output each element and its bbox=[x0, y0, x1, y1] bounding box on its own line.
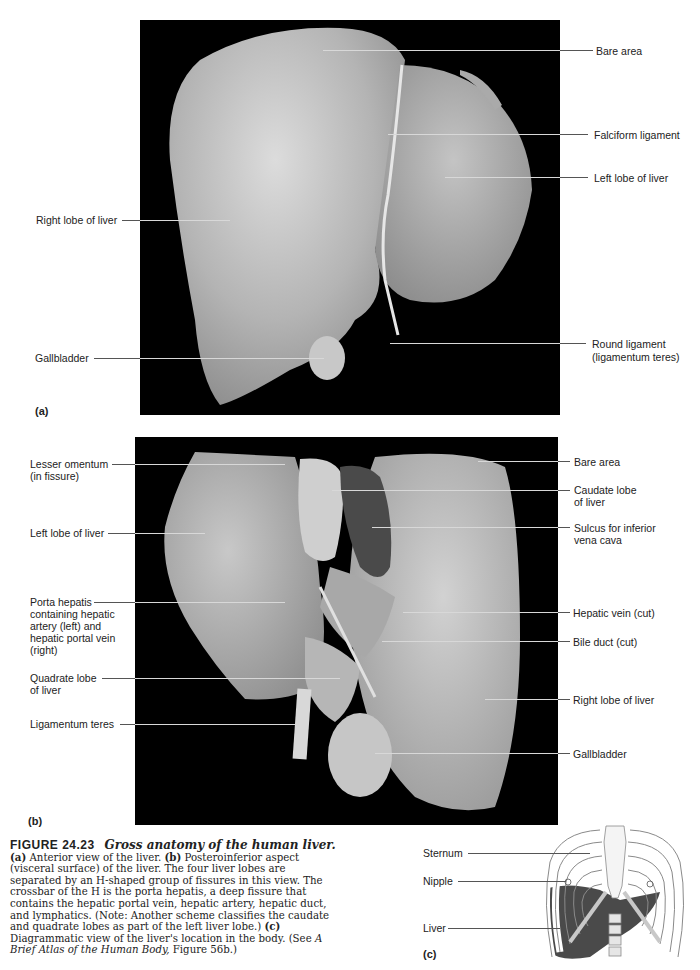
leader-line bbox=[135, 464, 285, 465]
leader-line bbox=[94, 358, 140, 359]
label-quadrate-lobe-1: Quadrate lobe bbox=[30, 672, 97, 684]
caption-text-c: Diagrammatic view of the liver's locatio… bbox=[10, 933, 315, 944]
label-left-lobe-a: Left lobe of liver bbox=[594, 172, 668, 184]
atlas-reference: Figure 56b.) bbox=[170, 944, 237, 955]
photo-anterior-liver bbox=[140, 20, 560, 415]
rib-cage-diagram bbox=[530, 822, 700, 970]
leader-line bbox=[558, 641, 570, 642]
leader-line bbox=[102, 678, 135, 679]
caption-tag-b: (b) bbox=[165, 851, 182, 863]
leader-line bbox=[122, 220, 140, 221]
label-nipple: Nipple bbox=[423, 875, 453, 887]
label-porta-hepatis-3: artery (left) and bbox=[30, 620, 101, 632]
panel-tag-b: (b) bbox=[28, 815, 42, 827]
label-gallbladder-a: Gallbladder bbox=[35, 352, 89, 364]
leader-line bbox=[558, 753, 570, 754]
label-porta-hepatis-1: Porta hepatis bbox=[30, 596, 92, 608]
figure-caption: FIGURE 24.23 Gross anatomy of the human … bbox=[10, 840, 340, 956]
label-caudate-lobe-1: Caudate lobe bbox=[574, 484, 636, 496]
label-lesser-omentum-2: (in fissure) bbox=[30, 470, 79, 482]
label-bare-area-b: Bare area bbox=[574, 456, 620, 468]
leader-line bbox=[560, 134, 588, 135]
label-lesser-omentum-1: Lesser omentum bbox=[30, 458, 108, 470]
leader-line bbox=[558, 527, 570, 528]
leader-line bbox=[332, 490, 558, 491]
panel-tag-a: (a) bbox=[35, 405, 48, 417]
label-sulcus-ivc-1: Sulcus for inferior bbox=[574, 522, 656, 534]
label-quadrate-lobe-2: of liver bbox=[30, 684, 61, 696]
label-liver-c: Liver bbox=[423, 922, 446, 934]
caption-text-b: Posteroinferior aspect (visceral surface… bbox=[10, 852, 329, 933]
leader-line bbox=[140, 358, 324, 359]
leader-line bbox=[135, 602, 285, 603]
leader-line bbox=[382, 641, 558, 642]
label-sternum: Sternum bbox=[423, 847, 463, 859]
leader-line bbox=[560, 50, 593, 51]
label-right-lobe-b: Right lobe of liver bbox=[573, 694, 654, 706]
label-porta-hepatis-4: hepatic portal vein bbox=[30, 632, 115, 644]
label-round-ligament-2: (ligamentum teres) bbox=[592, 351, 680, 363]
leader-line bbox=[390, 343, 560, 344]
leader-line bbox=[94, 602, 135, 603]
leader-line bbox=[558, 461, 570, 462]
leader-line bbox=[458, 881, 566, 882]
leader-line bbox=[140, 220, 230, 221]
label-ligamentum-teres: Ligamentum teres bbox=[30, 718, 114, 730]
leader-line bbox=[372, 527, 558, 528]
label-porta-hepatis-2: containing hepatic bbox=[30, 608, 115, 620]
label-left-lobe-b: Left lobe of liver bbox=[30, 527, 104, 539]
leader-line bbox=[560, 343, 586, 344]
leader-line bbox=[478, 461, 558, 462]
label-porta-hepatis-5: (right) bbox=[30, 644, 57, 656]
leader-line bbox=[108, 533, 135, 534]
leader-line bbox=[375, 753, 558, 754]
caption-tag-c: (c) bbox=[264, 920, 280, 932]
leader-line bbox=[558, 699, 570, 700]
label-bile-duct: Bile duct (cut) bbox=[573, 636, 637, 648]
label-caudate-lobe-2: of liver bbox=[574, 496, 605, 508]
liver-visceral-illustration bbox=[135, 437, 558, 825]
label-round-ligament-1: Round ligament bbox=[592, 338, 666, 350]
leader-line bbox=[135, 724, 303, 725]
leader-line bbox=[323, 50, 593, 51]
leader-line bbox=[112, 464, 135, 465]
leader-line bbox=[448, 928, 560, 929]
leader-line bbox=[135, 533, 205, 534]
leader-line bbox=[403, 612, 558, 613]
caption-text-a: Anterior view of the liver. bbox=[26, 852, 164, 863]
label-hepatic-vein: Hepatic vein (cut) bbox=[573, 607, 655, 619]
leader-line bbox=[558, 612, 570, 613]
leader-line bbox=[120, 724, 135, 725]
leader-line bbox=[468, 853, 590, 854]
label-gallbladder-b: Gallbladder bbox=[573, 748, 627, 760]
nipple-marker-right bbox=[647, 881, 653, 887]
leader-line bbox=[558, 490, 570, 491]
label-sulcus-ivc-2: vena cava bbox=[574, 534, 622, 546]
label-right-lobe-a: Right lobe of liver bbox=[36, 214, 117, 226]
panel-tag-c: (c) bbox=[423, 948, 436, 960]
label-bare-area-a: Bare area bbox=[596, 45, 642, 57]
leader-line bbox=[485, 699, 558, 700]
label-falciform-ligament: Falciform ligament bbox=[594, 129, 680, 141]
liver-anterior-illustration bbox=[140, 20, 560, 415]
rib-cage-illustration bbox=[530, 822, 700, 970]
leader-line bbox=[388, 134, 588, 135]
caption-tag-a: (a) bbox=[10, 851, 26, 863]
leader-line bbox=[560, 177, 588, 178]
figure-title: Gross anatomy of the human liver. bbox=[104, 838, 335, 852]
photo-visceral-liver bbox=[135, 437, 558, 825]
leader-line bbox=[135, 678, 340, 679]
